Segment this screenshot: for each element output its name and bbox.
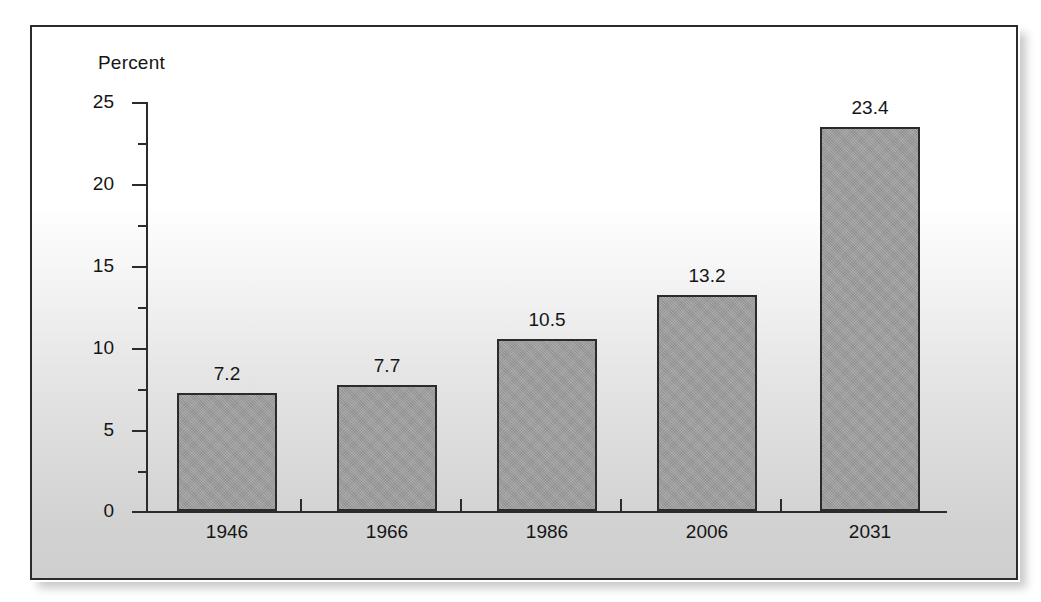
bar-value-1966: 7.7 [327, 355, 447, 377]
y-tick-5 [132, 430, 148, 432]
y-tick-label-5: 5 [54, 419, 114, 441]
x-tick-label-1986: 1986 [487, 521, 607, 543]
y-tick-20 [132, 184, 148, 186]
y-tick-label-25: 25 [54, 91, 114, 113]
y-minor-tick-17-5 [138, 225, 148, 227]
x-axis-line [146, 511, 947, 513]
x-tick-label-1966: 1966 [327, 521, 447, 543]
y-tick-0 [132, 511, 148, 513]
bar-2006[interactable] [657, 295, 757, 511]
y-tick-label-0: 0 [54, 500, 114, 522]
x-tick-label-2031: 2031 [810, 521, 930, 543]
y-tick-label-15: 15 [54, 255, 114, 277]
x-axis-separator-2 [460, 499, 462, 512]
page-root: Percent 25 20 15 10 5 0 [0, 0, 1041, 602]
bar-chart-plot: Percent 25 20 15 10 5 0 [32, 27, 1018, 580]
y-tick-label-20: 20 [54, 173, 114, 195]
bar-value-2031: 23.4 [810, 97, 930, 119]
x-axis-separator-1 [300, 499, 302, 512]
x-tick-label-2006: 2006 [647, 521, 767, 543]
y-minor-tick-7-5 [138, 389, 148, 391]
y-tick-25 [132, 102, 148, 104]
figure-frame: Percent 25 20 15 10 5 0 [30, 25, 1018, 580]
y-tick-10 [132, 348, 148, 350]
y-axis-title: Percent [98, 52, 165, 74]
bar-value-1986: 10.5 [487, 309, 607, 331]
bar-value-1946: 7.2 [167, 363, 287, 385]
bar-1986[interactable] [497, 339, 597, 511]
y-minor-tick-22-5 [138, 143, 148, 145]
y-tick-label-10: 10 [54, 337, 114, 359]
y-minor-tick-12-5 [138, 307, 148, 309]
x-axis-separator-4 [780, 499, 782, 512]
bar-2031[interactable] [820, 127, 920, 511]
y-tick-15 [132, 266, 148, 268]
x-tick-label-1946: 1946 [167, 521, 287, 543]
y-minor-tick-2-5 [138, 471, 148, 473]
bar-value-2006: 13.2 [647, 265, 767, 287]
bar-1946[interactable] [177, 393, 277, 511]
x-axis-separator-3 [620, 499, 622, 512]
bar-1966[interactable] [337, 385, 437, 511]
